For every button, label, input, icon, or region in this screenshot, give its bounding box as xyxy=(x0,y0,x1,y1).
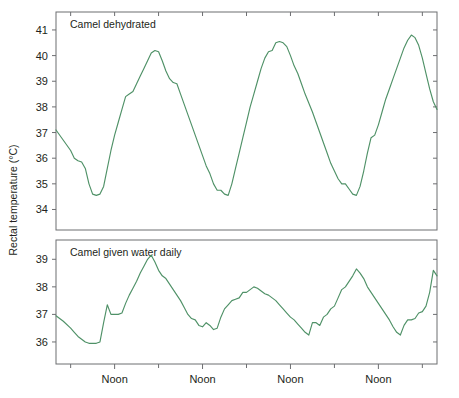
y-tick-label: 40 xyxy=(36,50,48,62)
panel-frame xyxy=(56,240,437,364)
figure-container: Rectal temperature (°C) 3435363738394041… xyxy=(0,0,459,398)
y-tick-label: 37 xyxy=(36,127,48,139)
panel-title: Camel given water daily xyxy=(70,246,182,258)
y-tick-label: 39 xyxy=(36,75,48,87)
x-tick-label-noon: Noon xyxy=(365,373,391,385)
data-line-camel-dehydrated xyxy=(56,35,437,195)
x-tick-label-noon: Noon xyxy=(189,373,215,385)
y-axis-title-group: Rectal temperature (°C) xyxy=(7,145,19,256)
y-tick-label: 36 xyxy=(36,336,48,348)
y-tick-label: 36 xyxy=(36,152,48,164)
data-line-camel-given-water-daily xyxy=(56,255,437,343)
x-tick-label-noon: Noon xyxy=(101,373,127,385)
y-tick-label: 39 xyxy=(36,253,48,265)
y-tick-label: 34 xyxy=(36,203,48,215)
y-tick-label: 35 xyxy=(36,178,48,190)
camel-temperature-chart: Rectal temperature (°C) 3435363738394041… xyxy=(0,0,459,398)
panel-camel-given-water-daily: 36373839Camel given water daily xyxy=(36,240,437,364)
panel-title: Camel dehydrated xyxy=(70,18,156,30)
x-axis: NoonNoonNoonNoon xyxy=(71,364,423,385)
y-tick-label: 37 xyxy=(36,308,48,320)
x-tick-label-noon: Noon xyxy=(277,373,303,385)
y-tick-label: 41 xyxy=(36,24,48,36)
y-tick-label: 38 xyxy=(36,101,48,113)
y-tick-label: 38 xyxy=(36,281,48,293)
y-axis-title: Rectal temperature (°C) xyxy=(7,145,19,256)
panel-camel-dehydrated: 3435363738394041Camel dehydrated xyxy=(36,12,437,230)
